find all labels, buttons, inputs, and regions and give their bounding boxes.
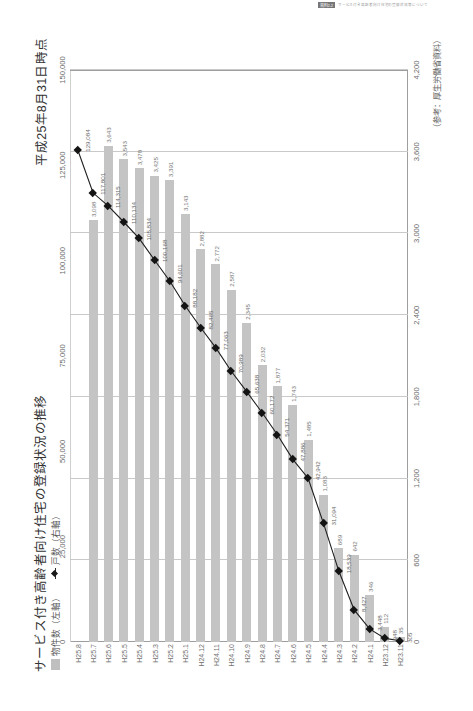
left-axis-tick-label: 4,200 bbox=[412, 60, 421, 79]
line-value-label: 60,172 bbox=[268, 396, 275, 415]
document-stamp-text: サービス付き高齢者向け住宅の登録状況等について bbox=[338, 3, 428, 8]
right-axis-tick-label: 50,000 bbox=[58, 440, 67, 463]
category-label: H24.7 bbox=[274, 644, 281, 663]
category-label: H24.1 bbox=[366, 644, 373, 663]
category-label: H25.8 bbox=[74, 644, 81, 663]
right-axis-tick-label: 25,000 bbox=[58, 535, 67, 558]
line-value-label: 77,063 bbox=[221, 331, 228, 350]
category-label: H24.3 bbox=[335, 644, 342, 663]
legend-item-bars: 物件数（左軸） bbox=[49, 593, 61, 670]
right-axis-tick-label: 125,000 bbox=[58, 152, 67, 179]
category-label: H25.3 bbox=[151, 644, 158, 663]
line-value-label: 82,465 bbox=[206, 311, 213, 330]
left-axis-tick-label: 1,800 bbox=[412, 387, 421, 406]
line-value-label: 3,448 bbox=[375, 615, 382, 630]
line-value-label: 31,094 bbox=[329, 507, 336, 526]
document-stamp-tag: 資料2-2 bbox=[318, 2, 335, 8]
category-label: H24.9 bbox=[243, 644, 250, 663]
line-value-label: 42,942 bbox=[314, 461, 321, 480]
line-value-label: 948 bbox=[390, 630, 397, 640]
plot-area: 351123466426891,0831,4851,7431,8772,0322… bbox=[70, 70, 408, 642]
line-value-label: 105,834 bbox=[145, 218, 152, 240]
right-axis-tick-label: 150,000 bbox=[58, 56, 67, 83]
as-of-date-label: 平成25年8月31日時点 bbox=[31, 38, 50, 166]
legend-label-bars: 物件数（左軸） bbox=[49, 593, 61, 656]
bar-swatch-icon bbox=[51, 659, 60, 670]
source-note: （参考：厚生労働省資料） bbox=[430, 36, 442, 132]
line-value-label: 117,801 bbox=[99, 173, 106, 195]
category-label: H24.2 bbox=[351, 644, 358, 663]
line-value-label: 47,886 bbox=[298, 442, 305, 461]
left-axis-tick-label: 2,400 bbox=[412, 306, 421, 325]
line-value-label: 100,168 bbox=[160, 240, 167, 262]
diamond-marker-icon bbox=[51, 568, 60, 579]
category-label: H24.4 bbox=[320, 644, 327, 663]
category-label: H24.6 bbox=[289, 644, 296, 663]
category-label: H25.4 bbox=[136, 644, 143, 663]
category-label: H24.8 bbox=[259, 644, 266, 663]
line-value-label: 70,989 bbox=[237, 354, 244, 373]
category-label: H24.11 bbox=[212, 644, 219, 666]
left-axis-tick-label: 0 bbox=[412, 640, 421, 644]
right-axis-tick-label: 0 bbox=[58, 640, 67, 644]
category-label: H25.2 bbox=[166, 644, 173, 663]
line-value-label: 110,134 bbox=[129, 202, 136, 224]
left-axis-tick-label: 600 bbox=[412, 554, 421, 567]
category-label: H25.6 bbox=[105, 644, 112, 663]
category-label: H23.11 bbox=[397, 644, 404, 666]
category-label: H25.1 bbox=[182, 644, 189, 663]
line-value-label: 114,315 bbox=[114, 186, 121, 208]
category-label: H24.5 bbox=[305, 644, 312, 663]
category-label: H23.12 bbox=[381, 644, 388, 667]
right-axis-tick-label: 100,000 bbox=[58, 247, 67, 274]
page-title: サービス付き高齢者向け住宅の登録状況の推移 bbox=[30, 395, 49, 672]
left-axis-tick-label: 1,200 bbox=[412, 469, 421, 488]
right-axis-tick-label: 75,000 bbox=[58, 344, 67, 367]
category-label: H25.5 bbox=[120, 644, 127, 663]
line-value-label: 129,084 bbox=[83, 129, 90, 151]
line-value-label: 94,601 bbox=[175, 264, 182, 283]
document-stamp: 資料2-2 サービス付き高齢者向け住宅の登録状況等について bbox=[318, 0, 470, 10]
left-axis-tick-label: 3,600 bbox=[412, 142, 421, 161]
line-value-label: 54,371 bbox=[283, 418, 290, 437]
line-value-label: 88,182 bbox=[191, 289, 198, 308]
category-label: H25.7 bbox=[90, 644, 97, 663]
line-value-label: 65,638 bbox=[252, 375, 259, 394]
category-label: H24.12 bbox=[197, 644, 204, 667]
left-axis-tick-label: 3,000 bbox=[412, 224, 421, 243]
line-value-label: 8,427 bbox=[360, 596, 367, 611]
chart-figure: サービス付き高齢者向け住宅の登録状況の推移 平成25年8月31日時点 物件数（左… bbox=[26, 26, 446, 686]
category-label: H24.10 bbox=[228, 644, 235, 667]
line-value-label: 18,539 bbox=[344, 554, 351, 573]
